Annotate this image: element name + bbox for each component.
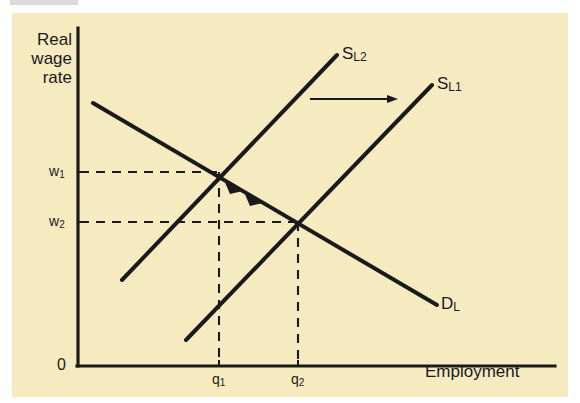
y-axis-title-line1: Real (20, 30, 72, 49)
x-tick-label-q1: q1 (212, 372, 225, 388)
curve-label-supply1: SL1 (437, 74, 462, 93)
curve-label-supply2: SL2 (342, 44, 367, 63)
y-axis-title: Real wage rate (20, 30, 72, 87)
x-tick-label-q2: q2 (291, 372, 304, 388)
y-tick-label-w2: w2 (49, 214, 65, 230)
supply-curve-SL2 (122, 55, 337, 280)
origin-label: 0 (57, 356, 66, 374)
labor-market-diagram (0, 0, 580, 403)
y-axis-title-line2: wage (20, 49, 72, 68)
supply-shift-arrow (310, 95, 398, 103)
y-tick-label-w1: w1 (49, 164, 65, 180)
curve-label-demand: DL (441, 294, 460, 313)
x-axis-title: Employment (425, 362, 519, 381)
y-axis-title-line3: rate (20, 68, 72, 87)
movement-arrowhead-1 (224, 180, 243, 194)
figure-screenshot: Real wage rate 0 Employment w1 w2 q1 q2 … (0, 0, 580, 403)
supply-curve-SL1 (186, 85, 432, 340)
